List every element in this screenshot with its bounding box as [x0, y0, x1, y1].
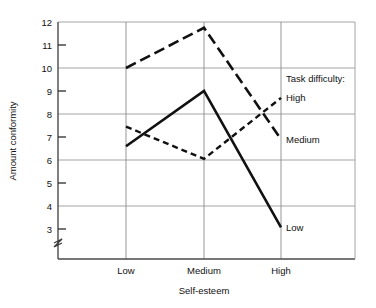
legend-label-high: High: [286, 92, 306, 103]
x-tick-labels: Low Medium High: [117, 265, 290, 276]
ytick-label-8: 8: [47, 109, 52, 120]
y-tick-labels: 12 11 10 9 8 7 6 5 4 3: [41, 17, 52, 235]
legend-label-low: Low: [286, 222, 304, 233]
gridlines: [58, 22, 355, 206]
series-line-high: [126, 28, 281, 140]
legend-title: Task difficulty:: [286, 73, 345, 84]
ytick-label-3: 3: [47, 224, 52, 235]
y-tick-marks: [58, 45, 66, 229]
legend: Task difficulty: High Medium Low: [286, 73, 345, 233]
x-axis-title: Self-esteem: [179, 285, 230, 296]
legend-label-medium: Medium: [286, 134, 320, 145]
ytick-label-9: 9: [47, 86, 52, 97]
chart-container: 12 11 10 9 8 7 6 5 4 3 Low Medium High S…: [0, 0, 376, 308]
series-lines: [126, 28, 281, 228]
ytick-label-5: 5: [47, 178, 52, 189]
category-gridlines: [126, 22, 281, 259]
xtick-label-medium: Medium: [187, 265, 221, 276]
xtick-label-high: High: [271, 265, 291, 276]
ytick-label-6: 6: [47, 155, 52, 166]
ytick-label-7: 7: [47, 132, 52, 143]
ytick-label-4: 4: [47, 201, 52, 212]
y-axis-title: Amount conformity: [7, 101, 18, 180]
ytick-label-12: 12: [41, 17, 52, 28]
ytick-label-10: 10: [41, 63, 52, 74]
line-chart: 12 11 10 9 8 7 6 5 4 3 Low Medium High S…: [0, 0, 376, 308]
xtick-label-low: Low: [117, 265, 135, 276]
ytick-label-11: 11: [42, 40, 52, 51]
